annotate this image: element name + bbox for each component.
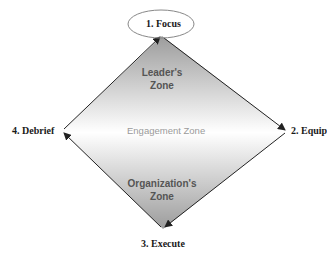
leaders-zone-line1: Leader's: [122, 66, 202, 79]
organizations-zone-line2: Zone: [112, 190, 212, 203]
node-execute: 3. Execute: [141, 238, 185, 249]
engagement-zone-label: Engagement Zone: [127, 125, 205, 136]
organizations-zone-label: Organization's Zone: [112, 177, 212, 203]
node-debrief: 4. Debrief: [12, 125, 54, 136]
leaders-zone-line2: Zone: [122, 79, 202, 92]
organizations-zone-line1: Organization's: [112, 177, 212, 190]
node-equip: 2. Equip: [291, 125, 327, 136]
node-focus: 1. Focus: [146, 18, 181, 29]
leaders-zone-label: Leader's Zone: [122, 66, 202, 92]
